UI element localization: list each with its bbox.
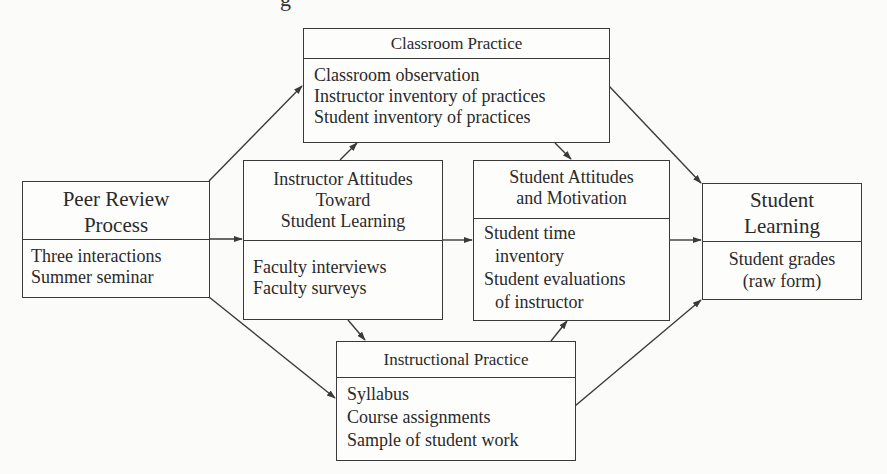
node-measures: Classroom observation Instructor invento… xyxy=(304,59,609,128)
arrow-instructor-to-instructional xyxy=(348,320,365,340)
measure-item: Student grades xyxy=(703,248,861,270)
node-classroom-practice: Classroom Practice Classroom observation… xyxy=(303,28,610,143)
node-title-line: Process xyxy=(23,212,209,238)
node-measures: Faculty interviews Faculty surveys xyxy=(244,241,442,299)
arrow-instructional-to-student-attitudes xyxy=(551,321,567,341)
node-measures: Three interactions Summer seminar xyxy=(23,240,209,288)
node-header: Student Attitudes and Motivation xyxy=(474,161,669,219)
node-header: Peer Review Process xyxy=(23,182,209,240)
measure-item: Student time xyxy=(484,222,669,245)
node-title: Instructional Practice xyxy=(337,350,575,370)
measure-item: Faculty interviews xyxy=(253,257,442,278)
node-title-line: Student Attitudes xyxy=(474,167,669,188)
measure-item: Summer seminar xyxy=(31,267,209,288)
arrow-classroom-to-student-attitudes xyxy=(555,143,571,159)
measure-item: Student evaluations xyxy=(484,268,669,291)
node-title-line: Peer Review xyxy=(23,186,209,212)
measure-item: (raw form) xyxy=(703,270,861,292)
node-measures: Syllabus Course assignments Sample of st… xyxy=(337,378,575,452)
node-title-line: Student xyxy=(703,187,861,213)
measure-item-continued: inventory xyxy=(484,245,669,268)
measure-item: Faculty surveys xyxy=(253,278,442,299)
measure-item-continued: of instructor xyxy=(484,291,669,314)
node-title-line: Toward xyxy=(244,190,442,211)
measure-item: Three interactions xyxy=(31,246,209,267)
measure-item: Student inventory of practices xyxy=(314,107,609,128)
node-instructor-attitudes: Instructor Attitudes Toward Student Lear… xyxy=(243,160,443,320)
measure-item: Instructor inventory of practices xyxy=(314,86,609,107)
node-instructional-practice: Instructional Practice Syllabus Course a… xyxy=(336,341,576,461)
arrow-instructor-to-classroom xyxy=(340,143,357,160)
measure-item: Sample of student work xyxy=(347,429,575,452)
node-header: Student Learning xyxy=(703,184,861,242)
node-title-line: Student Learning xyxy=(244,211,442,232)
node-title: Classroom Practice xyxy=(304,34,609,54)
node-header: Classroom Practice xyxy=(304,29,609,59)
measure-item: Syllabus xyxy=(347,383,575,406)
node-student-attitudes: Student Attitudes and Motivation Student… xyxy=(473,160,670,321)
node-header: Instructor Attitudes Toward Student Lear… xyxy=(244,161,442,241)
measure-item: Course assignments xyxy=(347,406,575,429)
node-measures: Student grades (raw form) xyxy=(703,242,861,292)
node-title-line: Learning xyxy=(703,213,861,239)
node-header: Instructional Practice xyxy=(337,342,575,378)
node-peer-review-process: Peer Review Process Three interactions S… xyxy=(22,181,210,298)
node-title-line: Instructor Attitudes xyxy=(244,169,442,190)
node-title-line: and Motivation xyxy=(474,188,669,209)
node-student-learning: Student Learning Student grades (raw for… xyxy=(702,183,862,300)
node-measures: Student time inventory Student evaluatio… xyxy=(474,219,669,314)
measure-item: Classroom observation xyxy=(314,65,609,86)
